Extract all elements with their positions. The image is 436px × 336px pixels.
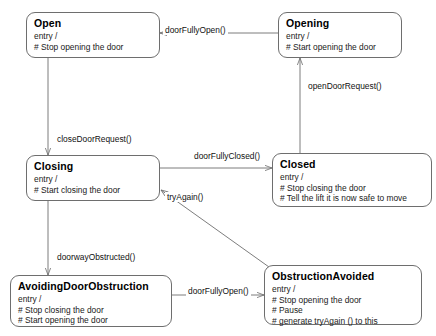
state-open-action-0: # Stop opening the door	[34, 42, 159, 53]
state-obstruction-avoided-name: ObstructionAvoided	[272, 270, 421, 283]
state-closing-name: Closing	[34, 160, 159, 173]
state-obstruction-avoided-action-0: # Stop opening the door	[272, 295, 421, 306]
state-open-entry: entry /	[34, 31, 159, 42]
transition-label-doorway-obstructed: doorwayObstructed()	[55, 252, 137, 262]
transition-label-door-fully-open-top: doorFullyOpen()	[163, 25, 228, 35]
edge-try-again	[161, 190, 276, 272]
state-closing[interactable]: Closing entry / # Start closing the door	[26, 155, 160, 201]
state-closed-entry: entry /	[280, 172, 431, 183]
state-avoiding-door-obstruction-action-1: # Start opening the door	[18, 315, 171, 326]
state-closed[interactable]: Closed entry / # Stop closing the door #…	[272, 153, 432, 207]
transition-label-door-fully-closed: doorFullyClosed()	[192, 151, 262, 161]
state-closed-action-0: # Stop closing the door	[280, 183, 431, 194]
state-avoiding-door-obstruction[interactable]: AvoidingDoorObstruction entry / # Stop c…	[10, 275, 172, 327]
state-diagram-canvas: Open entry / # Stop opening the door Ope…	[0, 0, 436, 336]
transition-label-door-fully-open-bottom: doorFullyOpen()	[186, 286, 251, 296]
state-avoiding-door-obstruction-entry: entry /	[18, 294, 171, 305]
state-closed-name: Closed	[280, 158, 431, 171]
state-opening[interactable]: Opening entry / # Start opening the door	[278, 12, 402, 58]
state-closed-action-1: # Tell the lift it is now safe to move	[280, 193, 431, 204]
state-obstruction-avoided-action-2: # generate tryAgain () to this	[272, 316, 421, 327]
state-opening-entry: entry /	[286, 31, 401, 42]
state-obstruction-avoided-entry: entry /	[272, 284, 421, 295]
transition-label-open-door-request: openDoorRequest()	[306, 81, 384, 91]
state-opening-action-0: # Start opening the door	[286, 42, 401, 53]
transition-label-try-again: tryAgain()	[165, 192, 205, 202]
state-closing-action-0: # Start closing the door	[34, 185, 159, 196]
state-open[interactable]: Open entry / # Stop opening the door	[26, 12, 160, 58]
state-avoiding-door-obstruction-action-0: # Stop closing the door	[18, 305, 171, 316]
state-obstruction-avoided-action-1: # Pause	[272, 305, 421, 316]
state-closing-entry: entry /	[34, 174, 159, 185]
state-avoiding-door-obstruction-name: AvoidingDoorObstruction	[18, 280, 171, 293]
state-open-name: Open	[34, 17, 159, 30]
state-obstruction-avoided[interactable]: ObstructionAvoided entry / # Stop openin…	[264, 265, 422, 325]
transition-label-close-door-request: closeDoorRequest()	[55, 134, 133, 144]
state-opening-name: Opening	[286, 17, 401, 30]
